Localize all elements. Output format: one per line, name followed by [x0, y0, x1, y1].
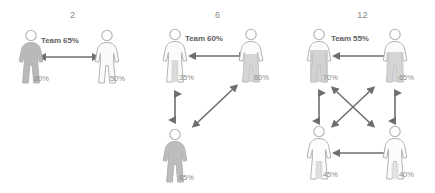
connector-arrow-vertical [170, 89, 180, 125]
connector-arrow-diagonal [192, 84, 238, 128]
connector-arrow-vertical [390, 88, 400, 126]
panel-title: 2 [0, 10, 145, 20]
panel-team-6: 6 [145, 0, 290, 193]
team-label: Team 65% [41, 36, 79, 45]
person-value-label: 35% [179, 73, 194, 82]
panel-team-2: 2 80% [0, 0, 145, 193]
panel-title: 6 [145, 10, 290, 20]
person-value-label: 65% [399, 73, 414, 82]
person-value-label: 70% [323, 73, 338, 82]
person-value-label: 85% [179, 173, 194, 182]
connector-arrow-diagonal [332, 87, 374, 127]
connector-arrow-vertical [314, 88, 324, 126]
team-label: Team 60% [185, 34, 223, 43]
person-value-label: 40% [399, 170, 414, 179]
person-value-label: 45% [323, 170, 338, 179]
diagram-canvas: 2 80% [0, 0, 435, 193]
person-value-label: 60% [254, 73, 269, 82]
person-value-label: 80% [34, 74, 49, 83]
team-label: Team 55% [331, 34, 369, 43]
connector-arrow-horizontal [40, 52, 98, 62]
person-value-label: 50% [110, 74, 125, 83]
panel-team-12: 12 [290, 0, 435, 193]
panel-title: 12 [290, 10, 435, 20]
